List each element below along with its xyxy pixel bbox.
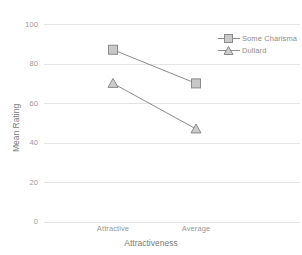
series-dullard (108, 78, 201, 133)
square-marker-icon (218, 33, 240, 44)
legend-label-some-charisma: Some Charisma (240, 33, 297, 44)
x-axis-title: Attractiveness (0, 238, 302, 248)
y-tick-label-100: 100 (8, 20, 38, 29)
y-tick-label-80: 80 (8, 59, 38, 68)
y-tick-label-20: 20 (8, 178, 38, 187)
legend-item-some-charisma[interactable]: Some Charisma (218, 33, 302, 44)
x-tick-label-attractive: Attractive (78, 224, 148, 233)
legend: Some Charisma Dullard (218, 33, 302, 57)
y-tick-label-0: 0 (8, 217, 38, 226)
chart-container: 100 80 60 40 20 0 Attractive Average Mea… (0, 0, 302, 255)
data-point-dullard-average (191, 124, 201, 133)
series-some-charisma (109, 45, 201, 88)
data-point-some-charisma-attractive (109, 45, 118, 54)
data-point-dullard-attractive (108, 78, 118, 87)
series-line-dullard (113, 83, 196, 129)
data-point-some-charisma-average (192, 79, 201, 88)
series-line-some-charisma (113, 50, 196, 84)
y-axis-title: Mean Rating (11, 104, 21, 152)
x-tick-label-average: Average (161, 224, 231, 233)
triangle-marker-icon (218, 45, 240, 56)
legend-item-dullard[interactable]: Dullard (218, 45, 302, 56)
legend-label-dullard: Dullard (240, 45, 266, 56)
